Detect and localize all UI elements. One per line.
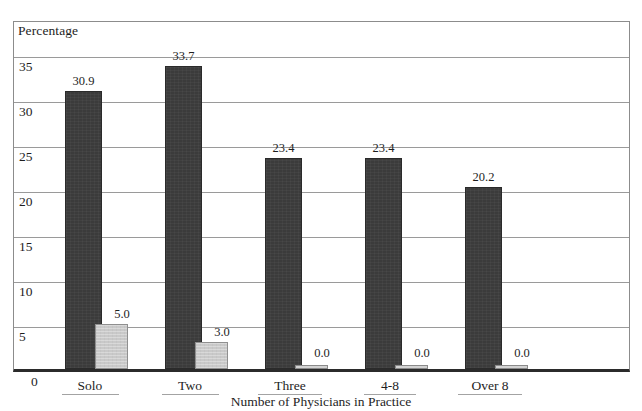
x-tick-label-three: Three [250,378,330,394]
x-tick-label-4-8: 4-8 [350,378,430,394]
y-tick-label-30: 30 [19,104,33,119]
y-tick-label-10: 10 [19,284,33,299]
gridline-10 [14,282,629,283]
bar-chart-figure: Percentage 35 30 25 20 15 10 5 0 30.9 5.… [0,0,642,411]
gridline-20 [14,192,629,193]
gridline-30 [14,102,629,103]
plot-frame [13,21,630,372]
gridline-35 [14,57,629,58]
gridline-25 [14,147,629,148]
x-tick-label-over-8: Over 8 [450,378,530,394]
y-axis-title: Percentage [18,23,78,39]
y-tick-label-20: 20 [19,194,33,209]
gridline-15 [14,237,629,238]
y-tick-label-0: 0 [31,374,38,389]
gridline-5 [14,327,629,328]
y-tick-label-35: 35 [19,59,33,74]
y-tick-label-15: 15 [19,239,33,254]
y-tick-label-25: 25 [19,149,33,164]
y-tick-label-5: 5 [19,329,26,344]
x-tick-label-solo: Solo [50,378,130,394]
x-tick-label-two: Two [150,378,230,394]
x-axis-title: Number of Physicians in Practice [0,394,642,410]
